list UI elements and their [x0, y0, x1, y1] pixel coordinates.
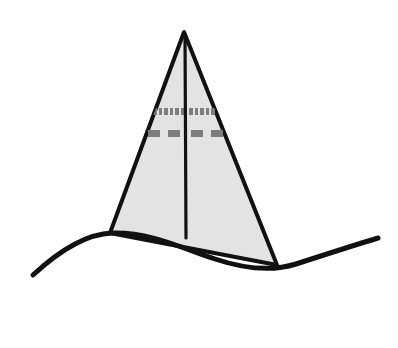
- dash-mark: [211, 108, 215, 115]
- dash-mark: [206, 108, 209, 115]
- center-mast-line: [185, 34, 186, 238]
- dash-mark: [159, 108, 162, 115]
- dash-mark: [189, 108, 193, 115]
- dash-mark: [170, 108, 173, 115]
- figure-canvas: Triangular sail over wavy ground line: [0, 0, 398, 348]
- dash-mark: [175, 108, 179, 115]
- dash-mark: [191, 130, 203, 137]
- dash-mark: [211, 130, 223, 137]
- dash-mark: [200, 108, 204, 115]
- dash-mark: [164, 108, 168, 115]
- dash-mark: [195, 108, 198, 115]
- dash-mark: [168, 130, 180, 137]
- dash-mark: [181, 108, 184, 115]
- diagram-svg: [0, 0, 398, 348]
- dash-mark: [148, 130, 160, 137]
